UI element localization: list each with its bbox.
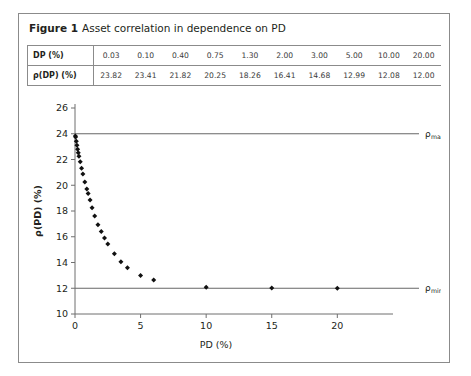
cell-pd-3: 0.75: [198, 46, 233, 66]
annotation-rho_max: ρmax= 24%: [425, 129, 441, 140]
cell-rho-2: 21.82: [163, 66, 198, 86]
data-point: [99, 229, 104, 234]
data-table: DP (%) 0.03 0.10 0.40 0.75 1.30 2.00 3.0…: [27, 45, 441, 86]
data-point: [76, 154, 81, 159]
data-point: [95, 222, 100, 227]
data-point: [102, 236, 107, 241]
data-point: [138, 273, 143, 278]
cell-rho-3: 20.25: [198, 66, 233, 86]
cell-rho-5: 16.41: [267, 66, 302, 86]
cell-rho-1: 23.41: [128, 66, 163, 86]
data-point: [335, 286, 340, 291]
x-tick-label: 10: [200, 320, 212, 331]
data-point: [151, 277, 156, 282]
data-point: [118, 259, 123, 264]
annotation-rho_min: ρmin= 12%: [425, 283, 441, 294]
data-point: [82, 180, 87, 185]
cell-pd-2: 0.40: [163, 46, 198, 66]
cell-rho-0: 23.82: [94, 66, 129, 86]
cell-pd-9: 20.00: [406, 46, 441, 66]
figure-title: Asset correlation in dependence on PD: [82, 22, 286, 34]
cell-rho-8: 12.08: [372, 66, 407, 86]
y-tick-label: 16: [56, 231, 68, 242]
cell-pd-1: 0.10: [128, 46, 163, 66]
row-header-rho: ρ(DP) (%): [28, 66, 94, 86]
cell-pd-6: 3.00: [302, 46, 337, 66]
cell-pd-0: 0.03: [94, 46, 129, 66]
data-point: [78, 159, 83, 164]
x-axis-label: PD (%): [200, 339, 233, 350]
row-header-pd: DP (%): [28, 46, 94, 66]
data-point: [204, 285, 209, 290]
y-tick-label: 12: [56, 283, 68, 294]
data-point: [86, 191, 91, 196]
table-row: ρ(DP) (%) 23.82 23.41 21.82 20.25 18.26 …: [28, 66, 442, 86]
y-tick-label: 18: [56, 205, 68, 216]
cell-rho-6: 14.68: [302, 66, 337, 86]
data-point: [269, 285, 274, 290]
data-point: [80, 171, 85, 176]
y-tick-label: 14: [56, 257, 68, 268]
data-point: [84, 187, 89, 192]
scatter-chart: 10121416182022242605101520PD (%)ρ(PD) (%…: [27, 96, 441, 354]
figure-label: Figure 1: [29, 22, 78, 34]
data-point: [112, 251, 117, 256]
cell-rho-4: 18.26: [233, 66, 268, 86]
cell-pd-7: 5.00: [337, 46, 372, 66]
cell-pd-5: 2.00: [267, 46, 302, 66]
x-tick-label: 5: [138, 320, 144, 331]
data-point: [88, 197, 93, 202]
cell-rho-9: 12.00: [406, 66, 441, 86]
cell-pd-4: 1.30: [233, 46, 268, 66]
annotation-subscript: max: [431, 133, 441, 140]
x-tick-label: 15: [266, 320, 278, 331]
data-point: [92, 213, 97, 218]
figure-caption: Figure 1Asset correlation in dependence …: [29, 22, 286, 35]
cell-pd-8: 10.00: [372, 46, 407, 66]
y-tick-label: 10: [56, 308, 68, 319]
chart-area: 10121416182022242605101520PD (%)ρ(PD) (%…: [27, 96, 441, 354]
y-axis-label: ρ(PD) (%): [32, 185, 43, 237]
y-tick-label: 24: [56, 128, 68, 139]
annotation-subscript: min: [431, 287, 441, 294]
figure-container: Figure 1Asset correlation in dependence …: [18, 13, 450, 363]
data-point: [125, 265, 130, 270]
y-tick-label: 20: [56, 180, 68, 191]
y-tick-label: 26: [56, 102, 68, 113]
data-point: [105, 242, 110, 247]
table-row: DP (%) 0.03 0.10 0.40 0.75 1.30 2.00 3.0…: [28, 46, 442, 66]
x-tick-label: 0: [72, 320, 78, 331]
data-point: [90, 205, 95, 210]
cell-rho-7: 12.99: [337, 66, 372, 86]
x-tick-label: 20: [331, 320, 343, 331]
data-point: [79, 166, 84, 171]
data-point: [75, 147, 80, 152]
y-tick-label: 22: [56, 154, 68, 165]
